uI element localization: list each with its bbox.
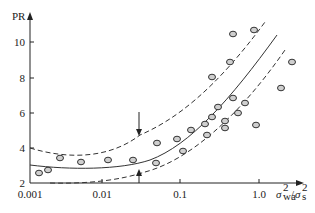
svg-text:σ: σ [295,188,301,200]
y-axis-arrow-icon [27,12,33,20]
chart: 10 8 6 4 2 PR 0.001 0.01 0.1 1.0 σ 2 wa … [0,0,315,213]
lower-bound-curve [50,50,285,183]
x-ticks: 0.001 0.01 0.1 1.0 [18,179,267,200]
y-ticks: 10 8 6 4 2 [14,36,34,189]
x-tick-label: 0.01 [92,188,111,200]
svg-text:s: s [302,190,306,202]
arrow-up-icon [136,169,142,176]
svg-text:σ: σ [276,188,282,200]
y-tick-label: 6 [20,107,26,119]
x-tick-label: 1.0 [252,188,266,200]
x-tick-label: 0.001 [18,188,43,200]
data-points [36,27,296,176]
y-tick-label: 10 [14,36,26,48]
x-tick-label: 0.1 [173,188,187,200]
y-tick-label: 8 [20,72,26,84]
upper-bound-curve [30,22,265,155]
annotation-arrows [136,112,142,183]
y-tick-label: 4 [20,142,26,154]
y-axis-label: PR [12,10,26,22]
fitted-mean-curve [30,35,277,168]
x-axis-label: σ 2 wa / σ 2 s [276,181,308,202]
